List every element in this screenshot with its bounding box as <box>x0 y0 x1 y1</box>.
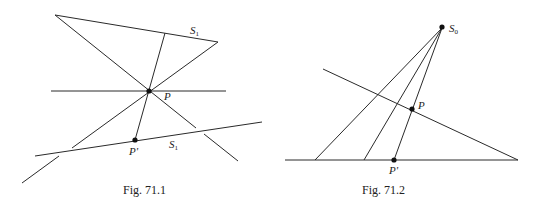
caption-fig-71-2: Fig. 71.2 <box>362 183 405 197</box>
line-slanted <box>323 69 518 160</box>
label-s1-bottom: S1 <box>169 138 179 152</box>
point-p-prime <box>132 137 137 142</box>
point-p <box>146 88 151 93</box>
diagram-canvas: S1 P P' S1 Fig. 71.1 S0 P P' Fig. 71.2 <box>0 0 540 204</box>
line-diagonal-a-lower <box>204 134 238 161</box>
line-s1-bottom <box>35 122 262 156</box>
label-p: P <box>163 90 171 102</box>
label-p: P <box>417 99 425 111</box>
point-p-prime <box>391 157 396 162</box>
point-s0 <box>439 24 444 29</box>
label-p-prime: P' <box>128 145 139 157</box>
ray-1 <box>315 28 442 160</box>
caption-fig-71-1: Fig. 71.1 <box>123 183 166 197</box>
ray-3 <box>394 28 442 160</box>
line-projection <box>135 33 165 140</box>
label-s1-top: S1 <box>190 24 200 38</box>
line-diagonal-a-upper <box>55 15 196 128</box>
figure-71-1: S1 P P' S1 Fig. 71.1 <box>22 15 262 197</box>
point-p <box>409 106 414 111</box>
label-p-prime: P' <box>388 164 399 176</box>
line-diagonal-b-lower <box>22 156 59 183</box>
figure-71-2: S0 P P' Fig. 71.2 <box>285 22 518 197</box>
label-s0: S0 <box>449 22 459 36</box>
